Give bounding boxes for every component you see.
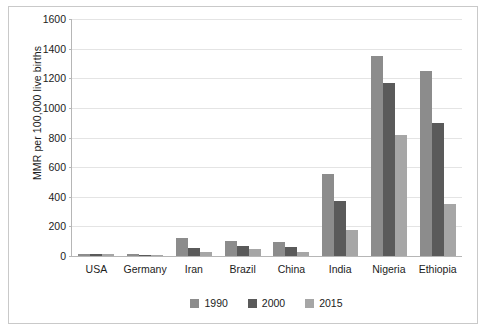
bars-layer xyxy=(72,19,462,256)
x-tick-label-nigeria: Nigeria xyxy=(372,263,405,275)
bar-group xyxy=(316,19,365,256)
legend-label: 2015 xyxy=(319,297,342,309)
x-tick-label-brazil: Brazil xyxy=(229,263,255,275)
legend-label: 1990 xyxy=(204,297,227,309)
bar-germany-1990 xyxy=(127,254,139,256)
legend-item-1990[interactable]: 1990 xyxy=(190,297,227,309)
bar-usa-2000 xyxy=(90,254,102,256)
chart-frame: MMR per 100,000 live births 020040060080… xyxy=(8,6,478,324)
y-axis-title: MMR per 100,000 live births xyxy=(31,23,43,203)
x-tick-label-iran: Iran xyxy=(185,263,203,275)
x-tick-label-germany: Germany xyxy=(124,263,167,275)
legend-swatch-icon xyxy=(305,299,314,308)
y-tick-label: 1600 xyxy=(43,13,66,25)
bar-group xyxy=(267,19,316,256)
y-tick-label: 600 xyxy=(48,161,66,173)
y-tick-label: 400 xyxy=(48,191,66,203)
legend-item-2000[interactable]: 2000 xyxy=(248,297,285,309)
bar-group xyxy=(365,19,414,256)
bar-brazil-2000 xyxy=(237,246,249,256)
bar-group xyxy=(170,19,219,256)
bar-india-2000 xyxy=(334,201,346,256)
bar-ethiopia-2000 xyxy=(432,123,444,256)
y-tick-label: 800 xyxy=(48,132,66,144)
bar-iran-1990 xyxy=(176,238,188,256)
legend-label: 2000 xyxy=(262,297,285,309)
chart-legend: 199020002015 xyxy=(71,297,462,309)
bar-ethiopia-2015 xyxy=(444,204,456,256)
legend-swatch-icon xyxy=(248,299,257,308)
bar-usa-1990 xyxy=(78,254,90,256)
bar-brazil-2015 xyxy=(249,249,261,256)
chart-figure: MMR per 100,000 live births 020040060080… xyxy=(0,0,486,331)
bar-ethiopia-1990 xyxy=(420,71,432,256)
bar-china-2015 xyxy=(297,252,309,256)
bar-group xyxy=(413,19,462,256)
bar-germany-2000 xyxy=(139,255,151,256)
x-tick-label-india: India xyxy=(329,263,352,275)
bar-nigeria-2000 xyxy=(383,83,395,256)
bar-group xyxy=(218,19,267,256)
bar-china-1990 xyxy=(273,242,285,256)
bar-germany-2015 xyxy=(151,255,163,256)
bar-iran-2015 xyxy=(200,252,212,256)
y-tick-label: 1000 xyxy=(43,102,66,114)
bar-nigeria-1990 xyxy=(371,56,383,256)
y-tick-mark xyxy=(69,256,72,257)
bar-group xyxy=(72,19,121,256)
y-tick-label: 200 xyxy=(48,220,66,232)
bar-group xyxy=(121,19,170,256)
bar-iran-2000 xyxy=(188,248,200,256)
bar-brazil-1990 xyxy=(225,241,237,256)
x-tick-label-china: China xyxy=(278,263,305,275)
y-tick-label: 0 xyxy=(60,250,66,262)
y-tick-label: 1200 xyxy=(43,72,66,84)
plot-area: 02004006008001000120014001600 USAGermany… xyxy=(71,19,462,257)
bar-usa-2015 xyxy=(102,254,114,256)
bar-china-2000 xyxy=(285,247,297,256)
bar-nigeria-2015 xyxy=(395,135,407,256)
x-tick-label-usa: USA xyxy=(86,263,108,275)
bar-india-2015 xyxy=(346,230,358,256)
bar-india-1990 xyxy=(322,174,334,256)
legend-item-2015[interactable]: 2015 xyxy=(305,297,342,309)
legend-swatch-icon xyxy=(190,299,199,308)
x-tick-label-ethiopia: Ethiopia xyxy=(419,263,457,275)
y-tick-label: 1400 xyxy=(43,43,66,55)
